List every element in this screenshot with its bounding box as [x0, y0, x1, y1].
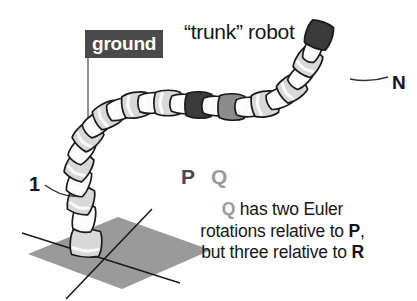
caption-line2-post: ,	[360, 221, 365, 241]
caption-line3-pre: but three relative to	[201, 242, 351, 262]
caption-line1-rest: has two Euler	[235, 199, 343, 219]
caption-line2-pre: rotations relative to	[200, 221, 348, 241]
figure-title: “trunk” robot	[184, 20, 294, 44]
link-label-p: P	[181, 165, 195, 189]
ground-badge: ground	[85, 30, 163, 58]
tip-label-leader-line	[350, 77, 388, 81]
link-label-q: Q	[211, 165, 227, 189]
trunk-robot-figure: ground “trunk” robot N 1 P Q Q has two E…	[0, 0, 417, 301]
caption-q-symbol: Q	[222, 199, 235, 219]
figure-caption: Q has two Euler rotations relative to P,…	[150, 199, 415, 264]
base-link-label-1: 1	[29, 173, 40, 196]
tip-link-label-n: N	[392, 72, 406, 94]
caption-p-symbol: P	[349, 221, 360, 241]
caption-r-symbol: R	[351, 242, 363, 262]
